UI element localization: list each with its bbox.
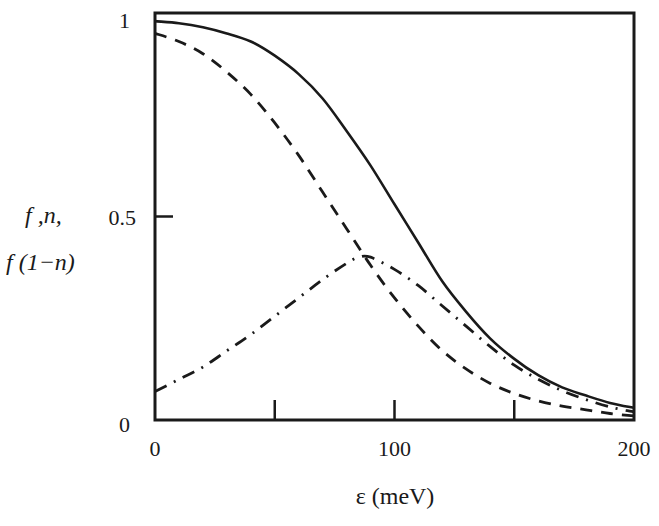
plot-frame — [155, 13, 634, 420]
x-axis-label: ε (meV) — [356, 483, 435, 509]
x-tick-label: 200 — [618, 436, 651, 461]
y-tick-label: 0 — [119, 412, 130, 437]
y-axis-label-line2: f (1−n) — [6, 249, 75, 275]
y-axis-label-line1: f ,n, — [25, 202, 62, 228]
x-tick-label: 0 — [150, 436, 161, 461]
y-tick-label: 1 — [119, 8, 130, 33]
x-tick-label: 100 — [378, 436, 411, 461]
y-tick-label: 0.5 — [109, 205, 137, 230]
chart: 010020000.51 f ,n, f (1−n) ε (meV) — [0, 0, 659, 526]
series-n — [155, 33, 634, 416]
series-layer — [155, 21, 634, 416]
